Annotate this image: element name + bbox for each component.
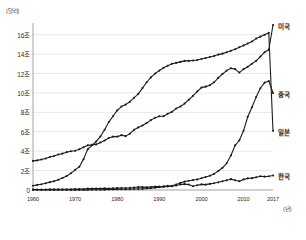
series-marker	[66, 151, 68, 153]
series-marker	[150, 187, 152, 189]
y-tick-label: 10조	[4, 88, 30, 97]
series-marker	[192, 179, 194, 181]
plot-area	[33, 25, 273, 190]
series-marker	[70, 150, 72, 152]
series-marker	[116, 136, 118, 138]
series-marker	[268, 32, 270, 34]
series-label-일본: 일본	[278, 127, 290, 137]
series-marker	[179, 105, 181, 107]
series-marker	[264, 34, 266, 36]
series-marker	[125, 135, 127, 137]
series-marker	[133, 129, 135, 131]
series-marker	[125, 104, 127, 106]
series-marker	[200, 183, 202, 185]
series-marker	[264, 51, 266, 53]
series-marker	[171, 111, 173, 113]
series-marker	[95, 143, 97, 145]
series-marker	[45, 157, 47, 159]
series-marker	[221, 73, 223, 75]
series-marker	[251, 40, 253, 42]
series-marker	[255, 96, 257, 98]
y-tick-label: 2조	[4, 166, 30, 175]
series-marker	[192, 185, 194, 187]
series-line-한국	[33, 175, 273, 190]
series-marker	[99, 136, 101, 138]
series-marker	[120, 105, 122, 107]
series-marker	[57, 154, 59, 156]
series-marker	[247, 116, 249, 118]
series-marker	[251, 63, 253, 65]
series-marker	[272, 92, 274, 94]
series-marker	[49, 189, 51, 191]
series-marker	[213, 182, 215, 184]
series-marker	[74, 189, 76, 191]
series-marker	[242, 130, 244, 132]
series-marker	[129, 188, 131, 190]
series-marker	[167, 185, 169, 187]
series-marker	[226, 70, 228, 72]
series-marker	[242, 68, 244, 70]
series-marker	[238, 72, 240, 74]
series-marker	[205, 184, 207, 186]
series-marker	[108, 188, 110, 190]
series-marker	[108, 137, 110, 139]
series-marker	[272, 174, 274, 176]
series-marker	[196, 178, 198, 180]
x-tick-label: 2010	[237, 196, 249, 202]
series-marker	[53, 189, 55, 191]
series-marker	[230, 154, 232, 156]
series-marker	[226, 162, 228, 164]
series-marker	[162, 186, 164, 188]
series-marker	[213, 55, 215, 57]
series-marker	[221, 53, 223, 55]
series-marker	[234, 48, 236, 50]
series-marker	[49, 181, 51, 183]
series-marker	[209, 175, 211, 177]
series-marker	[264, 82, 266, 84]
series-marker	[95, 140, 97, 142]
series-line-일본	[33, 33, 273, 186]
x-tick-label: 1980	[111, 196, 123, 202]
series-marker	[112, 115, 114, 117]
series-marker	[154, 187, 156, 189]
series-label-한국: 한국	[278, 171, 290, 181]
series-marker	[32, 189, 34, 191]
series-marker	[230, 50, 232, 52]
series-marker	[158, 70, 160, 72]
series-marker	[255, 60, 257, 62]
series-marker	[272, 24, 274, 26]
x-tick-label: 1970	[69, 196, 81, 202]
series-marker	[82, 158, 84, 160]
series-marker	[234, 68, 236, 70]
series-marker	[238, 180, 240, 182]
series-marker	[95, 189, 97, 191]
series-marker	[217, 181, 219, 183]
series-marker	[259, 55, 261, 57]
series-marker	[230, 178, 232, 180]
series-marker	[104, 129, 106, 131]
series-marker	[234, 144, 236, 146]
series-marker	[32, 160, 34, 162]
series-marker	[167, 113, 169, 115]
series-marker	[192, 95, 194, 97]
series-marker	[255, 38, 257, 40]
series-marker	[53, 180, 55, 182]
series-marker	[82, 146, 84, 148]
series-marker	[188, 180, 190, 182]
series-marker	[87, 148, 89, 150]
series-marker	[87, 144, 89, 146]
series-marker	[179, 183, 181, 185]
series-marker	[217, 170, 219, 172]
series-marker	[221, 167, 223, 169]
series-marker	[32, 185, 34, 187]
series-marker	[36, 184, 38, 186]
series-marker	[196, 59, 198, 61]
series-marker	[141, 188, 143, 190]
series-marker	[200, 177, 202, 179]
series-marker	[45, 182, 47, 184]
series-marker	[82, 189, 84, 191]
series-marker	[213, 81, 215, 83]
series-marker	[150, 119, 152, 121]
series-marker	[188, 99, 190, 101]
series-marker	[112, 188, 114, 190]
